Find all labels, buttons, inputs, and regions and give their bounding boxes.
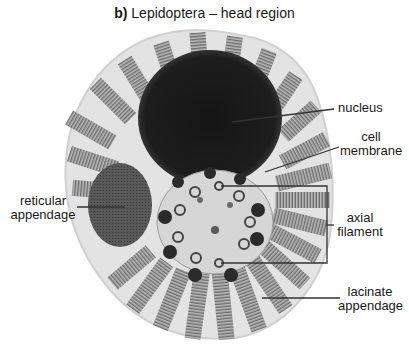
label-nucleus: nucleus: [338, 101, 383, 115]
label-axial-line2: filament: [336, 225, 384, 239]
label-cell-membrane-line2: membrane: [340, 144, 402, 158]
label-reticular-line1: reticular: [8, 194, 78, 208]
label-lacinate-appendage: lacinate appendage: [338, 285, 402, 313]
label-axial-filament: axial filament: [336, 211, 384, 239]
label-cell-membrane-line1: cell: [340, 130, 402, 144]
label-axial-line1: axial: [336, 211, 384, 225]
label-reticular-line2: appendage: [8, 208, 78, 222]
label-lacinate-line1: lacinate: [338, 285, 402, 299]
label-nucleus-text: nucleus: [338, 100, 383, 115]
reticular-appendage: [88, 163, 152, 247]
label-reticular-appendage: reticular appendage: [8, 194, 78, 222]
label-cell-membrane: cell membrane: [340, 130, 402, 158]
label-lacinate-line2: appendage: [338, 299, 402, 313]
